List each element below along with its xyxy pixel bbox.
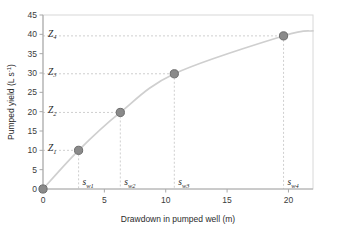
y-axis-title: Pumped yield (L s-1) <box>6 64 16 140</box>
y-tick-label: 30 <box>28 68 38 78</box>
y-tick-label: 40 <box>28 29 38 39</box>
chart-figure: 051015202530354045 05101520 Z1Z2Z3Z4 sw1… <box>0 0 339 235</box>
y-tick-label: 0 <box>32 184 37 194</box>
data-point <box>279 32 287 40</box>
svg-text:Pumped yield (L s-1): Pumped yield (L s-1) <box>6 64 16 140</box>
x-axis-ticks: 05101520 <box>41 189 294 205</box>
plot-frame <box>43 15 313 189</box>
y-axis-title-main: Pumped yield (L s <box>6 72 16 140</box>
y-axis-title-close: ) <box>6 64 16 67</box>
y-tick-label: 35 <box>28 49 38 59</box>
x-tick-label: 5 <box>102 195 107 205</box>
x-tick-label: 10 <box>161 195 171 205</box>
annotation-subscript: w2 <box>128 182 136 189</box>
y-tick-label: 10 <box>28 145 38 155</box>
annotation-subscript: w1 <box>86 182 93 189</box>
data-point <box>74 146 82 154</box>
annotation-subscript: w3 <box>182 182 189 189</box>
y-tick-label: 5 <box>32 165 37 175</box>
x-axis-title: Drawdown in pumped well (m) <box>121 214 235 224</box>
x-tick-label: 15 <box>222 195 232 205</box>
y-tick-label: 45 <box>28 10 38 20</box>
x-tick-label: 0 <box>41 195 46 205</box>
data-point <box>39 185 47 193</box>
data-point <box>170 70 178 78</box>
y-tick-label: 15 <box>28 126 38 136</box>
chart-svg: 051015202530354045 05101520 Z1Z2Z3Z4 sw1… <box>0 0 339 235</box>
y-tick-label: 25 <box>28 87 38 97</box>
annotation-subscript: 1 <box>53 148 56 155</box>
y-axis-ticks: 051015202530354045 <box>28 10 43 194</box>
x-tick-label: 20 <box>284 195 294 205</box>
data-point <box>116 108 124 116</box>
annotation-subscript: w4 <box>291 182 299 189</box>
y-tick-label: 20 <box>28 107 38 117</box>
annotation-subscript: 3 <box>52 71 56 78</box>
